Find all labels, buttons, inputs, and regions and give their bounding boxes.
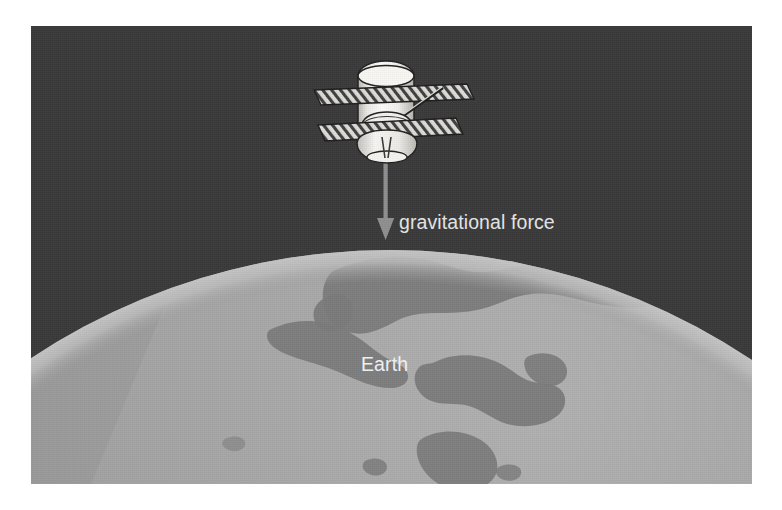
figure-root: gravitational force Earth (0, 0, 782, 510)
space-scene-panel: gravitational force Earth (31, 26, 752, 484)
scene-illustration (31, 26, 752, 484)
